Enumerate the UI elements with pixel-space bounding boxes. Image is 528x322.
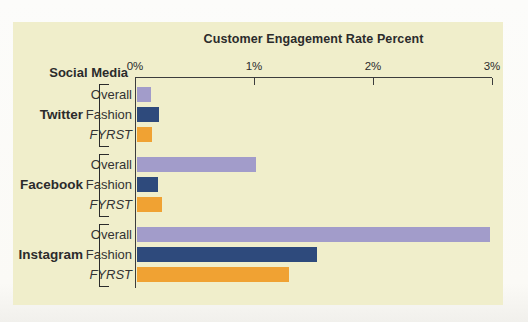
- axis-tick-mark: [254, 78, 255, 85]
- bar-row-label-fyrst: FYRST: [13, 197, 132, 212]
- axis-tick-label: 0%: [115, 60, 155, 72]
- bar-twitter-fashion: [137, 107, 160, 122]
- bar-twitter-fyrst: [137, 127, 152, 142]
- axis-tick-mark: [492, 78, 493, 85]
- bar-row-label-fyrst: FYRST: [13, 267, 132, 282]
- bar-instagram-fyrst: [137, 267, 289, 282]
- chart-panel: Customer Engagement Rate Percent Social …: [13, 22, 503, 305]
- bar-row-label-fyrst: FYRST: [13, 127, 132, 142]
- bar-instagram-overall: [137, 227, 490, 242]
- bar-instagram-fashion: [137, 247, 318, 262]
- chart-title: Customer Engagement Rate Percent: [135, 32, 492, 46]
- bar-row-label-fashion: Fashion: [13, 107, 132, 122]
- axis-tick-label: 2%: [353, 60, 393, 72]
- bar-row-label-fashion: Fashion: [13, 247, 132, 262]
- bar-facebook-overall: [137, 157, 256, 172]
- bar-facebook-fashion: [137, 177, 158, 192]
- axis-tick-label: 3%: [472, 60, 512, 72]
- axis-tick-mark: [373, 78, 374, 85]
- bar-row-label-overall: Overall: [13, 227, 132, 242]
- axis-tick-label: 1%: [234, 60, 274, 72]
- group-axis-label: Social Media: [13, 65, 128, 80]
- bar-twitter-overall: [137, 87, 151, 102]
- page: { "chart_data": { "type": "bar", "orient…: [0, 0, 528, 322]
- bar-row-label-overall: Overall: [13, 87, 132, 102]
- bar-row-label-overall: Overall: [13, 157, 132, 172]
- bar-facebook-fyrst: [137, 197, 162, 212]
- value-axis-line: [135, 77, 492, 78]
- bar-row-label-fashion: Fashion: [13, 177, 132, 192]
